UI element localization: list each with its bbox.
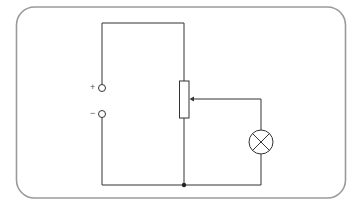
potentiometer-icon [180,81,190,118]
lamp-icon [249,130,273,154]
negative-label: − [90,109,95,118]
circuit-diagram [0,0,360,200]
negative-terminal-icon [99,111,106,118]
top-wire [102,23,184,85]
positive-terminal-icon [99,85,106,92]
bottom-wire [102,118,261,186]
positive-label: + [90,83,95,92]
wiper-wire [192,99,261,130]
junction-dot [182,183,186,187]
wiper-arrow-icon [190,97,195,102]
